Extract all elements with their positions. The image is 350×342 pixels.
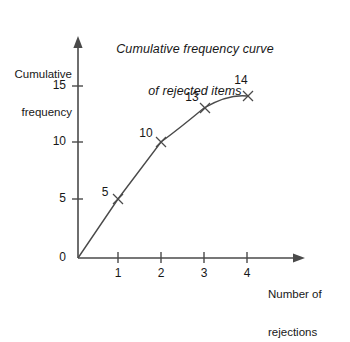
y-axis-origin-label: 0	[44, 251, 66, 264]
x-tick-label-2: 2	[153, 267, 169, 280]
data-point-label-4: 14	[230, 74, 252, 87]
y-tick-label-15: 15	[44, 79, 66, 92]
y-tick-label-5: 5	[44, 192, 66, 205]
data-point-label-1: 5	[94, 186, 116, 199]
data-point-label-2: 10	[135, 127, 157, 140]
chart-title-line-1: Cumulative frequency curve	[95, 42, 295, 56]
x-axis-title-line-1: Number of	[268, 288, 350, 301]
data-point-marker-2	[156, 137, 166, 147]
y-axis-title: Cumulative frequency	[0, 42, 72, 145]
chart-title: Cumulative frequency curve of rejected i…	[95, 14, 295, 126]
data-point-label-3: 13	[181, 91, 203, 104]
x-axis-title: Number of rejections	[268, 262, 350, 342]
x-axis-title-line-2: rejections	[268, 326, 350, 339]
y-axis-arrowhead-icon	[73, 36, 82, 48]
y-tick-label-10: 10	[44, 135, 66, 148]
x-tick-label-3: 3	[196, 267, 212, 280]
y-axis-title-line-2: frequency	[0, 106, 72, 119]
x-tick-label-4: 4	[239, 267, 255, 280]
x-tick-label-1: 1	[110, 267, 126, 280]
